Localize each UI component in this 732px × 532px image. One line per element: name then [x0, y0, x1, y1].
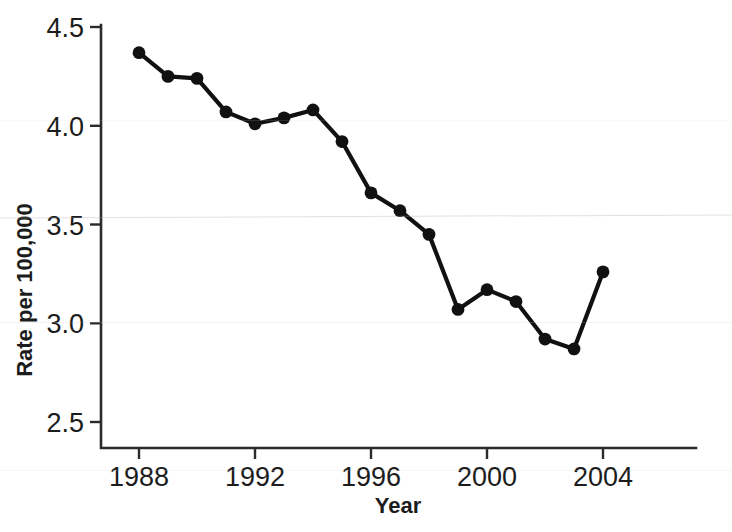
- data-point: [191, 72, 204, 85]
- y-axis-title: Rate per 100,000: [12, 203, 37, 377]
- data-point: [394, 204, 407, 217]
- data-point: [162, 70, 175, 83]
- data-point: [597, 266, 610, 279]
- data-point: [220, 106, 233, 119]
- data-point: [365, 187, 378, 200]
- y-axis-tick-labels: 4.5 4.0 3.5 3.0 2.5: [46, 13, 84, 438]
- y-tick-label: 3.5: [46, 211, 84, 241]
- data-point: [307, 104, 320, 117]
- data-point: [568, 343, 581, 356]
- x-tick-label: 1996: [341, 462, 401, 492]
- x-axis-title: Year: [375, 493, 422, 518]
- data-point: [452, 303, 465, 316]
- y-tick-label: 4.5: [46, 13, 84, 43]
- y-tick-label: 4.0: [46, 112, 84, 142]
- x-tick-label: 1992: [225, 462, 285, 492]
- x-axis-tick-labels: 1988 1992 1996 2000 2004: [109, 462, 633, 492]
- y-axis-ticks: [90, 27, 101, 422]
- x-tick-label: 2004: [573, 462, 633, 492]
- data-line-series-rate: [139, 53, 603, 349]
- data-point: [510, 295, 523, 308]
- y-tick-label: 3.0: [46, 309, 84, 339]
- data-point: [539, 333, 552, 346]
- data-point: [336, 135, 349, 148]
- x-axis-ticks: [139, 448, 603, 459]
- data-point: [133, 46, 146, 59]
- data-point-markers: [133, 46, 610, 355]
- data-point: [423, 228, 436, 241]
- x-tick-label: 1988: [109, 462, 169, 492]
- y-tick-label: 2.5: [46, 408, 84, 438]
- data-point: [278, 111, 291, 124]
- chart-canvas: Rate per 100,000 Year 4.5 4.0 3.5 3.0 2.…: [0, 0, 732, 532]
- data-point: [481, 283, 494, 296]
- data-point: [249, 117, 262, 130]
- axis-spines: [101, 25, 696, 448]
- line-chart-figure: Rate per 100,000 Year 4.5 4.0 3.5 3.0 2.…: [0, 0, 732, 532]
- x-tick-label: 2000: [457, 462, 517, 492]
